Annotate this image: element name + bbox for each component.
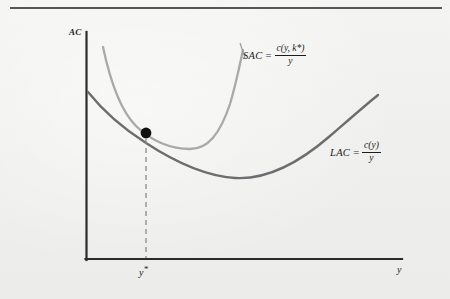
lac-fraction: c(y) y <box>362 141 381 164</box>
x-tick-label-star: * <box>143 264 148 274</box>
sac-curve <box>103 47 243 149</box>
lac-denominator: y <box>367 153 375 164</box>
sac-label-name: SAC <box>243 50 263 61</box>
sac-denominator: y <box>286 56 294 67</box>
x-axis-label: y <box>397 265 401 275</box>
lac-numerator: c(y) <box>362 141 381 152</box>
x-tick-label-ystar: y* <box>139 265 148 278</box>
lac-curve <box>88 92 378 178</box>
lac-label-name: LAC <box>330 147 350 158</box>
lac-annotation: LAC = c(y) y <box>330 141 381 164</box>
figure-container: AC y y* SAC = c(y, k*) y LAC = c(y) y <box>0 0 450 299</box>
y-axis-label: AC <box>69 28 81 37</box>
sac-equals-sign: = <box>266 50 272 61</box>
sac-annotation: SAC = c(y, k*) y <box>243 44 306 67</box>
sac-numerator: c(y, k*) <box>275 44 307 55</box>
tangency-point-marker <box>141 128 152 139</box>
cost-curves-plot <box>0 0 450 299</box>
sac-fraction: c(y, k*) y <box>275 44 307 67</box>
lac-equals-sign: = <box>353 147 359 158</box>
